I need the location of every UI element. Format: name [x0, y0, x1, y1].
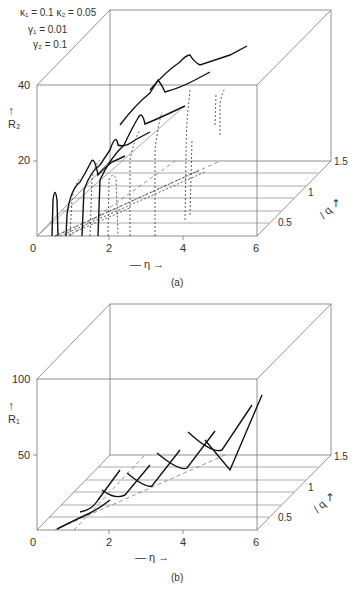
a-ytick-40: 40	[18, 80, 30, 91]
b-ylabel-arrow-icon: ↑	[8, 400, 14, 412]
b-ytick-50: 50	[18, 450, 30, 461]
a-ytick-20: 20	[18, 155, 30, 166]
a-qtick-0.5: 0.5	[278, 218, 292, 228]
panel-a-curves	[52, 46, 247, 236]
a-xtick-0: 0	[30, 243, 36, 254]
b-ytick-100: 100	[12, 374, 30, 385]
gamma2-label: γ₂ = 0.1	[33, 40, 67, 50]
panel-b-caption: (b)	[171, 572, 183, 583]
panel-b-curves	[57, 395, 262, 529]
b-xlabel: — η →	[135, 552, 169, 563]
a-xlabel: — η →	[130, 259, 164, 270]
gamma1-label: γ₁ = 0.01	[28, 25, 67, 35]
a-ylabel-arrow-icon: ↑	[8, 105, 14, 117]
b-qtick-1: 1	[308, 483, 314, 493]
panel-b-box	[33, 304, 331, 534]
a-xtick-6: 6	[253, 243, 259, 254]
b-xtick-6: 6	[253, 537, 259, 548]
a-xtick-4: 4	[180, 243, 186, 254]
b-xtick-2: 2	[106, 537, 112, 548]
a-qtick-1.5: 1.5	[334, 157, 348, 167]
b-qtick-0.5: 0.5	[278, 513, 292, 523]
a-ylabel: R₂	[8, 119, 20, 130]
kappa-label: κ₁ = 0.1 κ₂ = 0.05	[20, 8, 96, 18]
b-xtick-4: 4	[180, 537, 186, 548]
figure-canvas	[0, 0, 357, 590]
a-qtick-1: 1	[308, 188, 314, 198]
b-ylabel: R₁	[8, 414, 20, 425]
b-xtick-0: 0	[30, 537, 36, 548]
b-qtick-1.5: 1.5	[334, 452, 348, 462]
a-xtick-2: 2	[106, 243, 112, 254]
panel-a-caption: (a)	[171, 277, 183, 288]
panel-a-box	[33, 10, 331, 240]
